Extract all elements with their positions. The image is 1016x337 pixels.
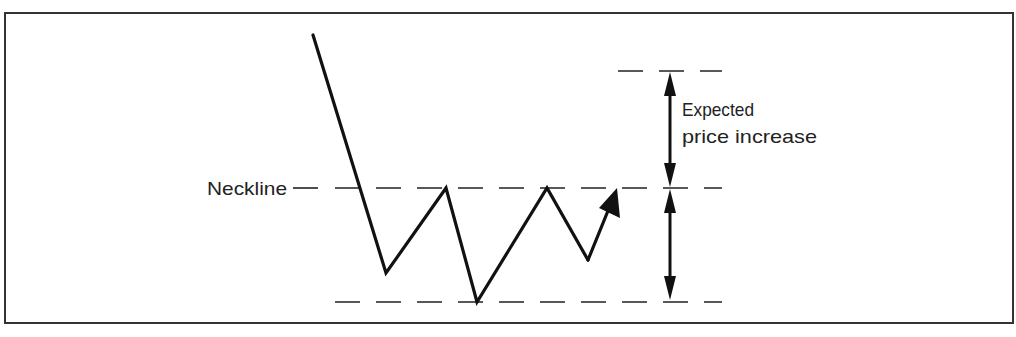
breakout-arrowhead-icon — [599, 188, 620, 218]
expected-label-line1: Expected — [682, 99, 754, 120]
expected-label-line2: price increase — [682, 126, 817, 147]
head-and-shoulders-diagram: Neckline Expected price increase — [0, 0, 1016, 337]
expected-arrow-top-head-icon — [664, 72, 676, 96]
neckline-label: Neckline — [207, 178, 287, 199]
diagram-frame — [5, 13, 1013, 323]
price-path-line — [313, 35, 588, 302]
depth-arrow-top-head-icon — [664, 189, 676, 213]
depth-arrow-bottom-head-icon — [664, 276, 676, 300]
expected-arrow-bottom-head-icon — [664, 163, 676, 187]
